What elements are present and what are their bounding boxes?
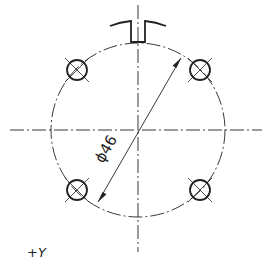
hole-top-right — [188, 58, 212, 82]
axis-label: +Y — [27, 245, 46, 259]
hole-bottom-right — [188, 178, 212, 202]
hole-top-left — [65, 58, 89, 82]
hole-bottom-left — [65, 178, 89, 202]
technical-drawing — [0, 0, 262, 259]
